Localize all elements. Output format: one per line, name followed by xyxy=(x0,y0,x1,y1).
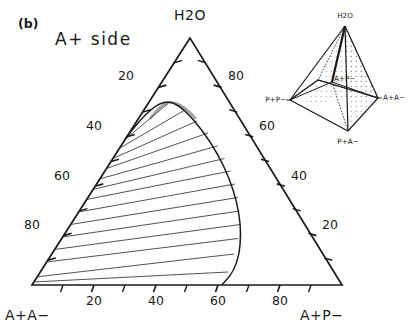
inset-label-front: A+P− xyxy=(334,74,355,83)
triangle-axes xyxy=(32,38,342,285)
figure-panel-b: (b) A+ side 20 40 60 80 80 60 40 20 xyxy=(0,0,420,326)
inset-label-right: A+A− xyxy=(383,93,405,102)
left-tick-label-20: 20 xyxy=(118,68,134,83)
left-tick-label-60: 60 xyxy=(54,168,70,183)
ternary-diagram-svg: (b) A+ side 20 40 60 80 80 60 40 20 xyxy=(0,0,420,326)
inset-label-bottom: P+A− xyxy=(337,137,358,146)
right-tick-label-80: 80 xyxy=(228,68,244,83)
right-tick-label-60: 60 xyxy=(259,118,275,133)
bottom-tick-label-80: 80 xyxy=(272,293,288,308)
inset-pyramid: H2O A+P− P+P− A+A− P+A− xyxy=(265,11,405,146)
side-annotation: A+ side xyxy=(55,29,132,49)
vertex-label-top: H2O xyxy=(174,7,206,23)
inset-label-apex: H2O xyxy=(337,11,353,20)
vertex-label-left: A+A− xyxy=(5,307,50,323)
panel-label: (b) xyxy=(18,16,38,31)
bottom-tick-label-20: 20 xyxy=(86,293,102,308)
vertex-label-right: A+P− xyxy=(300,307,343,323)
left-tick-label-80: 80 xyxy=(24,217,40,232)
inset-label-left: P+P− xyxy=(265,95,286,104)
right-tick-label-40: 40 xyxy=(291,168,307,183)
left-tick-label-40: 40 xyxy=(86,118,102,133)
bottom-tick-label-40: 40 xyxy=(148,293,164,308)
bottom-axis-ticks xyxy=(61,285,312,292)
right-tick-label-20: 20 xyxy=(322,217,338,232)
bottom-tick-label-60: 60 xyxy=(210,293,226,308)
tie-line-group xyxy=(34,104,241,283)
